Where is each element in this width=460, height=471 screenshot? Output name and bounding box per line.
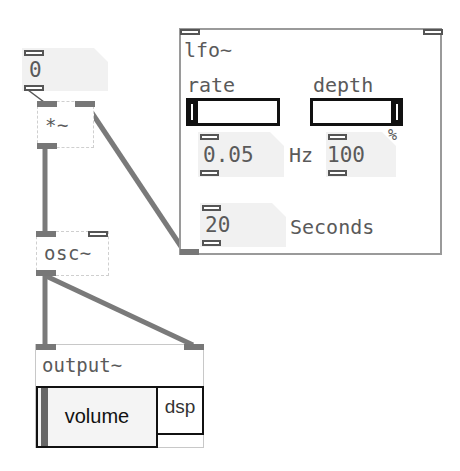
output-object[interactable]: output~ volume dsp bbox=[35, 344, 204, 448]
depth-unit: % bbox=[388, 126, 397, 144]
inlet-left[interactable] bbox=[36, 231, 56, 237]
dsp-label: dsp bbox=[158, 396, 202, 418]
outlet-signal[interactable] bbox=[36, 270, 56, 276]
slider-marker bbox=[191, 104, 193, 120]
depth-number-box[interactable]: 100 bbox=[326, 132, 396, 177]
inlet-right[interactable] bbox=[423, 29, 443, 35]
duration-value: 20 bbox=[205, 213, 230, 237]
object-label: *~ bbox=[45, 114, 69, 136]
number-value: 0 bbox=[29, 58, 42, 82]
duration-unit: Seconds bbox=[290, 215, 374, 239]
cable-osc-to-output-right bbox=[46, 276, 193, 345]
inlet-left[interactable] bbox=[37, 101, 57, 107]
multiply-object[interactable]: *~ bbox=[37, 101, 94, 148]
duration-number-box[interactable]: 20 bbox=[200, 203, 286, 247]
rate-label: rate bbox=[187, 73, 235, 97]
number-box-input[interactable]: 0 bbox=[22, 48, 108, 91]
outlet-control[interactable] bbox=[200, 170, 219, 176]
lfo-panel[interactable]: lfo~ rate depth 0.05 Hz 100 % 20 Seconds bbox=[179, 28, 442, 255]
inlet-left[interactable] bbox=[36, 344, 56, 350]
inlet-control[interactable] bbox=[24, 50, 44, 56]
inlet-right[interactable] bbox=[75, 101, 95, 107]
inlet-control[interactable] bbox=[202, 205, 221, 211]
rate-number-box[interactable]: 0.05 bbox=[198, 132, 284, 177]
depth-slider[interactable] bbox=[310, 98, 403, 126]
outlet-control[interactable] bbox=[202, 240, 221, 246]
depth-value: 100 bbox=[327, 143, 365, 167]
cable-lfo-to-multiply bbox=[86, 104, 184, 251]
dsp-toggle-button[interactable]: dsp bbox=[156, 386, 204, 435]
slider-marker bbox=[396, 104, 398, 120]
outlet-signal[interactable] bbox=[37, 143, 57, 149]
outlet-control[interactable] bbox=[328, 170, 347, 176]
depth-label: depth bbox=[313, 73, 373, 97]
object-label: output~ bbox=[42, 354, 122, 376]
volume-slider[interactable]: volume bbox=[36, 386, 158, 448]
outlet-signal[interactable] bbox=[180, 249, 199, 255]
object-label: osc~ bbox=[44, 242, 92, 264]
inlet-right[interactable] bbox=[88, 231, 108, 237]
panel-title: lfo~ bbox=[184, 38, 232, 62]
inlet-left[interactable] bbox=[180, 29, 200, 35]
osc-object[interactable]: osc~ bbox=[36, 231, 109, 276]
inlet-control[interactable] bbox=[328, 134, 347, 140]
inlet-control[interactable] bbox=[200, 134, 219, 140]
inlet-right[interactable] bbox=[184, 344, 204, 350]
volume-label: volume bbox=[38, 405, 156, 428]
rate-unit: Hz bbox=[289, 143, 313, 167]
outlet-control[interactable] bbox=[24, 85, 44, 91]
rate-slider[interactable] bbox=[186, 98, 280, 126]
rate-value: 0.05 bbox=[203, 143, 254, 167]
